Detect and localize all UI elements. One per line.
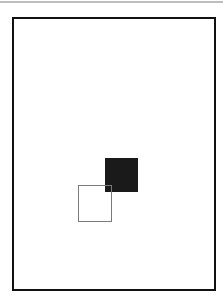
page-frame <box>12 17 216 291</box>
top-divider <box>0 1 223 3</box>
outlined-square <box>78 185 112 222</box>
